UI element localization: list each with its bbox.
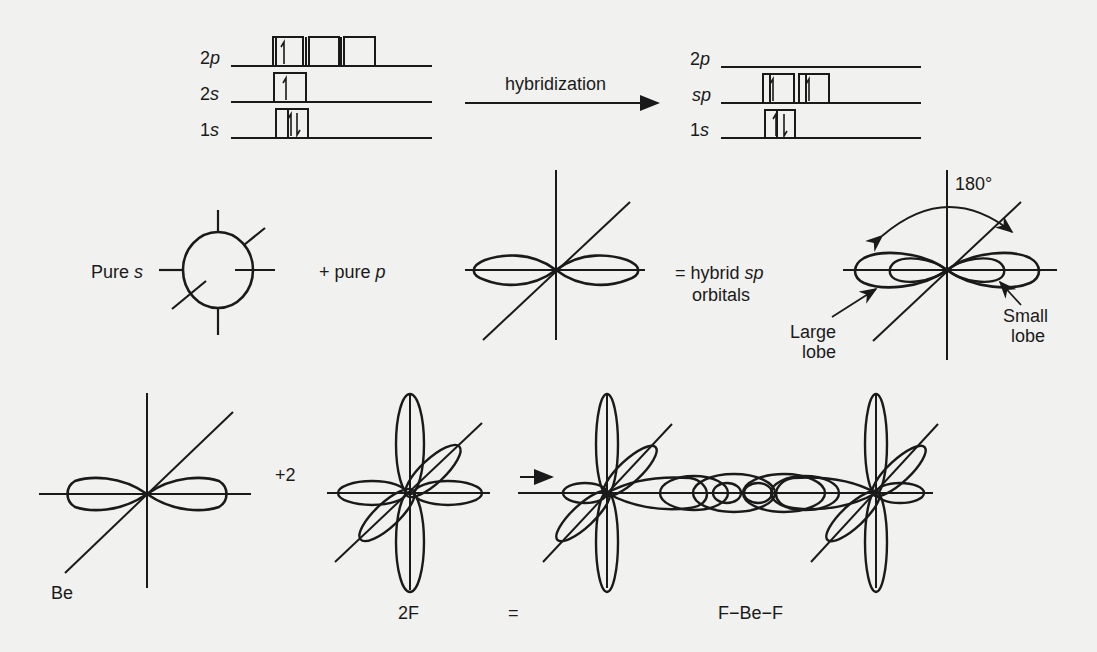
- ground-state-config: [231, 37, 432, 138]
- orbital-box: [273, 37, 303, 66]
- orbital-box: [763, 74, 794, 103]
- level-number: 2: [200, 84, 210, 104]
- spin-up-arrow-icon: [283, 78, 286, 100]
- level-orbital: s: [700, 120, 709, 140]
- label-line: Small: [1003, 306, 1048, 326]
- pure-p-label: + pure p: [319, 262, 386, 282]
- label-text: Pure: [91, 262, 129, 282]
- pure-s-orbital: [159, 210, 275, 335]
- level-orbital: s: [210, 84, 219, 104]
- pure-s-label: Pure s: [91, 262, 143, 282]
- two-f-label: 2F: [398, 603, 419, 623]
- label-line: lobe: [1003, 326, 1048, 346]
- level-number: 2: [200, 48, 210, 68]
- orbital-box: [765, 110, 795, 138]
- pure-p-orbital: [465, 170, 645, 340]
- level-orbital: p: [210, 48, 220, 68]
- label-orbital: p: [376, 262, 386, 282]
- orbital-box: [344, 37, 375, 66]
- ground-1s-label: 1s: [200, 120, 219, 140]
- ground-2s-label: 2s: [200, 84, 219, 104]
- angle-label: 180°: [955, 174, 992, 194]
- be-label: Be: [51, 583, 73, 603]
- spin-down-arrow-icon: [297, 113, 300, 135]
- level-number: 1: [200, 120, 210, 140]
- hybrid-sp-label: sp: [692, 85, 711, 105]
- label-line: lobe: [790, 342, 836, 362]
- hybrid-1s-label: 1s: [690, 120, 709, 140]
- hybrid-sp-caption: = hybrid sp: [675, 263, 764, 283]
- level-orbital: s: [210, 120, 219, 140]
- orbital-box: [799, 74, 829, 103]
- large-lobe-label: Largelobe: [790, 322, 836, 362]
- hybridization-label: hybridization: [505, 74, 606, 94]
- orbital-box: [309, 37, 339, 66]
- level-number: 2: [690, 49, 700, 69]
- label-line: Large: [790, 322, 836, 342]
- fluorine-p-orbitals: [327, 393, 490, 592]
- product-label: F−Be−F: [718, 603, 783, 623]
- label-orbital: sp: [745, 263, 764, 283]
- spin-up-arrow-icon: [281, 42, 284, 64]
- hybridization-diagram: [0, 0, 1097, 652]
- f-be-f-molecule: [518, 393, 938, 592]
- small-lobe-label: Smalllobe: [1003, 306, 1048, 346]
- label-text: = hybrid: [675, 263, 740, 283]
- orbital-box: [274, 73, 306, 102]
- label-text: + pure: [319, 262, 371, 282]
- level-number: 1: [690, 120, 700, 140]
- spin-down-arrow-icon: [784, 114, 787, 136]
- level-orbital: p: [700, 49, 710, 69]
- plus-two-label: +2: [275, 465, 296, 485]
- equals-label: =: [508, 603, 519, 623]
- label-orbital: s: [134, 262, 143, 282]
- spin-up-arrow-icon: [773, 114, 776, 136]
- large-lobe-pointer-icon: [832, 289, 876, 317]
- orbitals-caption: orbitals: [692, 285, 750, 305]
- hybrid-2p-label: 2p: [690, 49, 710, 69]
- be-sp-orbitals: [39, 393, 251, 588]
- orbital-box: [276, 109, 308, 138]
- ground-2p-label: 2p: [200, 48, 220, 68]
- hybridized-state-config: [721, 67, 921, 138]
